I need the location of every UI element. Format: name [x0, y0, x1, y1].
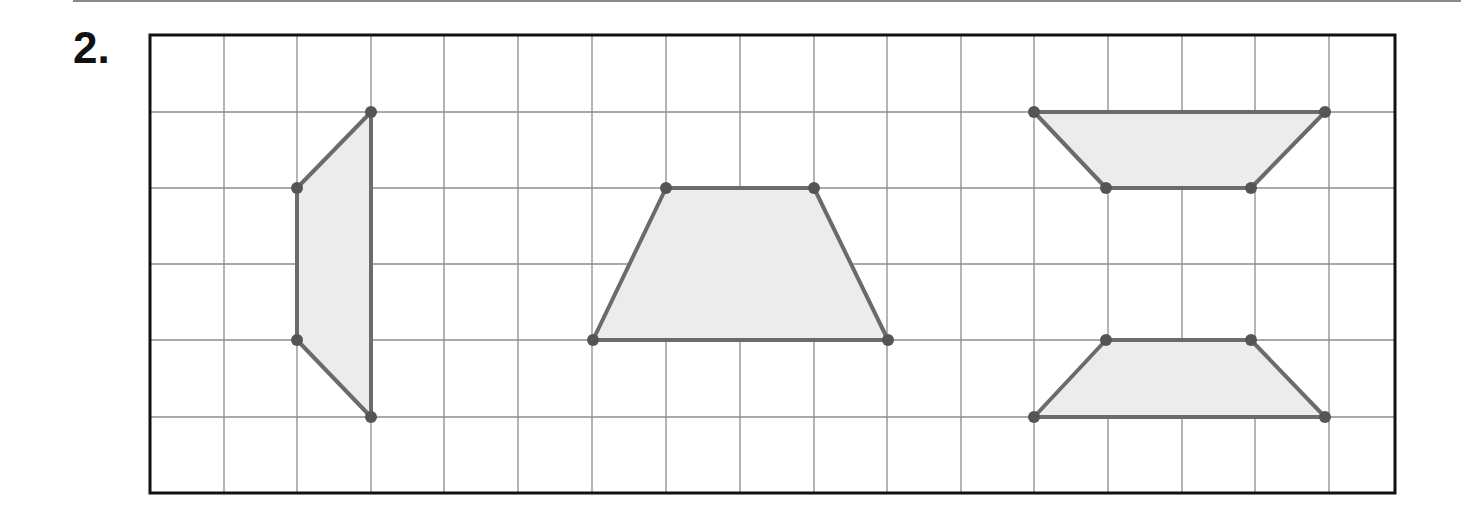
- vertex-point: [1028, 411, 1040, 423]
- vertex-point: [587, 334, 599, 346]
- vertex-point: [1028, 106, 1040, 118]
- vertex-point: [1100, 182, 1112, 194]
- vertex-point: [365, 106, 377, 118]
- vertex-point: [882, 334, 894, 346]
- vertex-point: [365, 411, 377, 423]
- vertex-point: [1245, 182, 1257, 194]
- vertex-point: [1245, 334, 1257, 346]
- vertex-point: [660, 182, 672, 194]
- vertex-point: [291, 334, 303, 346]
- grid-figure: [0, 0, 1469, 523]
- vertex-point: [1319, 411, 1331, 423]
- vertex-point: [1319, 106, 1331, 118]
- vertex-point: [291, 182, 303, 194]
- vertex-point: [808, 182, 820, 194]
- vertex-point: [1100, 334, 1112, 346]
